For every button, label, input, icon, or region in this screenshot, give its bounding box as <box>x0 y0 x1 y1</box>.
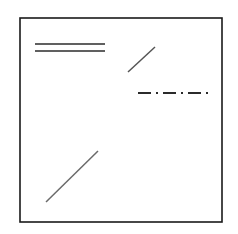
figure-canvas <box>0 0 238 234</box>
line-figure-svg <box>0 0 238 234</box>
figure-background <box>0 0 238 234</box>
